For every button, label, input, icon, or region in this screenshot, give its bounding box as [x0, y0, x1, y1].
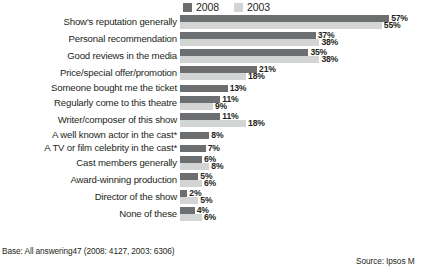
- bar-group: 13%: [180, 85, 428, 92]
- base-note: Base: All answering47 (2008: 4127, 2003:…: [2, 246, 175, 256]
- bar-2008: [180, 132, 209, 139]
- chart-row: Director of the show2%5%: [0, 190, 428, 204]
- chart-row: Regularly come to this theatre11%9%: [0, 96, 428, 110]
- bar-line: 21%: [180, 66, 428, 73]
- chart-legend: 2008 2003: [183, 1, 270, 14]
- chart-row: A well known actor in the cast*8%: [0, 130, 428, 140]
- bar-2003: [180, 103, 213, 110]
- bar-value-label: 38%: [321, 55, 338, 64]
- bar-group: 35%38%: [180, 49, 428, 63]
- bar-line: 18%: [180, 73, 428, 80]
- bar-2003: [180, 163, 209, 170]
- legend-item-2003: 2003: [234, 2, 270, 13]
- category-label: Director of the show: [0, 192, 180, 202]
- bar-value-label: 6%: [204, 213, 216, 222]
- category-label: Price/special offer/promotion: [0, 68, 180, 78]
- bar-line: 35%: [180, 49, 428, 56]
- bar-line: 6%: [180, 180, 428, 187]
- bar-2008: [180, 66, 257, 73]
- source-note: Source: Ipsos M: [356, 256, 414, 266]
- chart-row: Someone bought me the ticket13%: [0, 83, 428, 93]
- bar-2003: [180, 22, 382, 29]
- bar-value-label: 9%: [215, 102, 227, 111]
- bar-value-label: 18%: [248, 72, 265, 81]
- bar-group: 11%9%: [180, 96, 428, 110]
- bar-2003: [180, 197, 198, 204]
- bar-2008: [180, 156, 202, 163]
- bar-group: 37%38%: [180, 32, 428, 46]
- bar-value-label: 8%: [211, 131, 223, 140]
- chart-row: A TV or film celebrity in the cast*7%: [0, 143, 428, 153]
- bar-line: 38%: [180, 56, 428, 63]
- bar-2008: [180, 207, 195, 214]
- bar-2008: [180, 190, 187, 197]
- category-label: A well known actor in the cast*: [0, 130, 180, 140]
- legend-item-2008: 2008: [183, 2, 219, 13]
- category-label: None of these: [0, 209, 180, 219]
- bar-line: 8%: [180, 132, 428, 139]
- bar-2008: [180, 85, 228, 92]
- bar-line: 5%: [180, 197, 428, 204]
- bar-line: 6%: [180, 214, 428, 221]
- bar-2003: [180, 56, 319, 63]
- bar-line: 55%: [180, 22, 428, 29]
- bar-value-label: 8%: [211, 162, 223, 171]
- bar-line: 11%: [180, 113, 428, 120]
- bar-value-label: 18%: [248, 119, 265, 128]
- chart-row: Good reviews in the media35%38%: [0, 49, 428, 63]
- category-label: Someone bought me the ticket: [0, 83, 180, 93]
- chart-row: Writer/composer of this show11%18%: [0, 113, 428, 127]
- chart-row: Cast members generally6%8%: [0, 156, 428, 170]
- bar-group: 5%6%: [180, 173, 428, 187]
- bar-group: 11%18%: [180, 113, 428, 127]
- bar-group: 4%6%: [180, 207, 428, 221]
- bar-2008: [180, 113, 220, 120]
- bar-2003: [180, 180, 202, 187]
- chart-row: Show's reputation generally57%55%: [0, 15, 428, 29]
- bar-2003: [180, 214, 202, 221]
- bar-group: 21%18%: [180, 66, 428, 80]
- legend-label-2003: 2003: [247, 2, 270, 13]
- plot-area: Show's reputation generally57%55%Persona…: [0, 15, 428, 224]
- chart-row: Price/special offer/promotion21%18%: [0, 66, 428, 80]
- bar-value-label: 6%: [204, 179, 216, 188]
- bar-2008: [180, 173, 198, 180]
- bar-line: 5%: [180, 173, 428, 180]
- bar-value-label: 5%: [200, 196, 212, 205]
- bar-line: 8%: [180, 163, 428, 170]
- bar-group: 57%55%: [180, 15, 428, 29]
- category-label: Writer/composer of this show: [0, 115, 180, 125]
- category-label: Award-winning production: [0, 175, 180, 185]
- bar-line: 2%: [180, 190, 428, 197]
- bar-2008: [180, 15, 389, 22]
- bar-group: 6%8%: [180, 156, 428, 170]
- legend-label-2008: 2008: [196, 2, 219, 13]
- legend-swatch-2003: [234, 3, 243, 12]
- bar-line: 13%: [180, 85, 428, 92]
- category-label: Show's reputation generally: [0, 17, 180, 27]
- bar-2003: [180, 39, 319, 46]
- category-label: Good reviews in the media: [0, 51, 180, 61]
- chart-row: Award-winning production5%6%: [0, 173, 428, 187]
- bar-line: 7%: [180, 145, 428, 152]
- category-label: A TV or film celebrity in the cast*: [0, 143, 180, 153]
- bar-line: 18%: [180, 120, 428, 127]
- bar-line: 38%: [180, 39, 428, 46]
- bar-value-label: 7%: [208, 144, 220, 153]
- legend-swatch-2008: [183, 3, 192, 12]
- bar-value-label: 55%: [384, 21, 401, 30]
- bar-group: 7%: [180, 145, 428, 152]
- bar-2003: [180, 73, 246, 80]
- bar-line: 4%: [180, 207, 428, 214]
- bar-line: 37%: [180, 32, 428, 39]
- bar-2008: [180, 32, 316, 39]
- bar-group: 8%: [180, 132, 428, 139]
- bar-value-label: 38%: [321, 38, 338, 47]
- category-label: Personal recommendation: [0, 34, 180, 44]
- bar-2003: [180, 120, 246, 127]
- bar-line: 9%: [180, 103, 428, 110]
- category-label: Regularly come to this theatre: [0, 98, 180, 108]
- chart-row: None of these4%6%: [0, 207, 428, 221]
- chart-row: Personal recommendation37%38%: [0, 32, 428, 46]
